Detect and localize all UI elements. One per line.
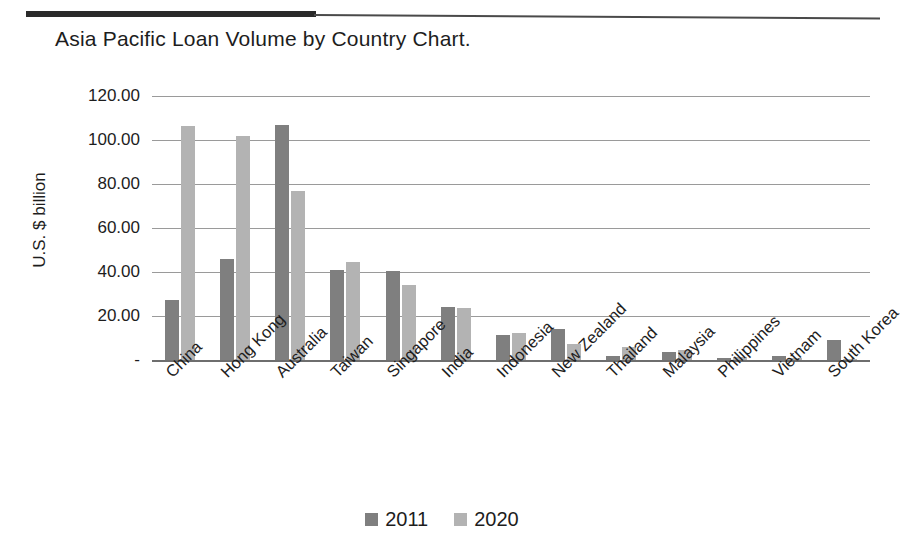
- bar-group-china: [152, 96, 207, 360]
- y-axis-tick-100: 100.00: [62, 131, 140, 148]
- legend-item-2020[interactable]: 2020: [454, 508, 519, 531]
- y-axis-tick-120: 120.00: [62, 87, 140, 104]
- legend-swatch-icon-2020: [454, 513, 467, 526]
- y-axis-tick-60: 60.00: [62, 219, 140, 236]
- y-axis-tick-80: 80.00: [62, 175, 140, 192]
- bar-group-taiwan: [318, 96, 373, 360]
- bar-group-malaysia: [649, 96, 704, 360]
- bar-taiwan-2011[interactable]: [330, 270, 344, 360]
- y-axis-tick-20: 20.00: [62, 307, 140, 324]
- bar-group-hong-kong: [207, 96, 262, 360]
- bar-group-indonesia: [483, 96, 538, 360]
- legend-label-2020: 2020: [474, 508, 519, 531]
- legend-label-2011: 2011: [385, 508, 428, 531]
- bar-group-south-korea: [815, 96, 870, 360]
- legend-swatch-icon-2011: [365, 513, 378, 526]
- bar-china-2020[interactable]: [181, 126, 195, 360]
- x-axis-tick-labels: ChinaHong KongAustraliaTaiwanSingaporeIn…: [152, 362, 870, 492]
- bar-australia-2020[interactable]: [291, 191, 305, 360]
- bar-group-singapore: [373, 96, 428, 360]
- legend-item-2011[interactable]: 2011: [365, 508, 428, 531]
- bar-singapore-2011[interactable]: [386, 271, 400, 360]
- bar-china-2011[interactable]: [165, 300, 179, 361]
- bar-hong-kong-2020[interactable]: [236, 136, 250, 360]
- y-axis-tick-40: 40.00: [62, 263, 140, 280]
- bar-hong-kong-2011[interactable]: [220, 259, 234, 360]
- y-axis-title: U.S. $ billion: [30, 120, 50, 320]
- y-axis-tick-0: -: [62, 351, 140, 368]
- y-axis-tick-labels: 120.00100.0080.0060.0040.0020.00-: [60, 0, 140, 555]
- bar-group-philippines: [704, 96, 759, 360]
- chart-legend: 20112020: [0, 508, 884, 531]
